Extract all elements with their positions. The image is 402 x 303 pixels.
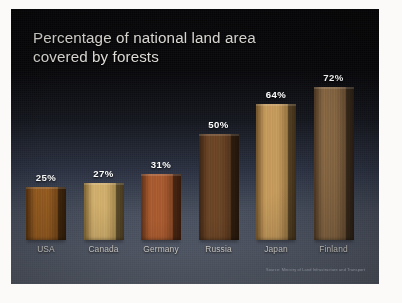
bar-group-finland: 72%Finland xyxy=(314,87,354,240)
bar-drop-shadow xyxy=(85,239,123,242)
bar-group-germany: 31%Germany xyxy=(141,174,181,240)
source-note: Source: Ministry of Land Infrastructure … xyxy=(266,267,365,272)
bar-top-highlight xyxy=(199,134,239,136)
bar-drop-shadow xyxy=(142,239,180,242)
bar-side-face xyxy=(116,183,124,240)
bar-drop-shadow xyxy=(315,239,353,242)
bar-drop-shadow xyxy=(257,239,295,242)
photo-frame: Percentage of national land area covered… xyxy=(0,0,402,303)
bar-value-label: 31% xyxy=(141,159,181,170)
bar-top-highlight xyxy=(141,174,181,176)
bar-top-highlight xyxy=(84,183,124,185)
bar-drop-shadow xyxy=(27,239,65,242)
bar-value-label: 50% xyxy=(199,119,239,130)
bar-category-label: Germany xyxy=(133,244,189,254)
bar-side-face xyxy=(346,87,354,240)
bar-group-japan: 64%Japan xyxy=(256,104,296,240)
bar-germany xyxy=(141,174,181,240)
bar-side-face xyxy=(288,104,296,240)
bar-finland xyxy=(314,87,354,240)
bar-side-face xyxy=(58,187,66,240)
bar-top-highlight xyxy=(256,104,296,106)
bar-value-label: 27% xyxy=(84,168,124,179)
bar-category-label: Japan xyxy=(248,244,304,254)
bar-side-face xyxy=(231,134,239,240)
bar-canada xyxy=(84,183,124,240)
presentation-slide: Percentage of national land area covered… xyxy=(11,9,379,284)
bar-japan xyxy=(256,104,296,240)
bar-russia xyxy=(199,134,239,240)
bar-value-label: 64% xyxy=(256,89,296,100)
bar-side-face xyxy=(173,174,181,240)
bar-value-label: 72% xyxy=(314,72,354,83)
bar-group-usa: 25%USA xyxy=(26,187,66,240)
bar-top-highlight xyxy=(26,187,66,189)
bar-category-label: USA xyxy=(18,244,74,254)
bar-top-highlight xyxy=(314,87,354,89)
bar-usa xyxy=(26,187,66,240)
bar-category-label: Canada xyxy=(76,244,132,254)
bar-group-russia: 50%Russia xyxy=(199,134,239,240)
bar-drop-shadow xyxy=(200,239,238,242)
bar-group-canada: 27%Canada xyxy=(84,183,124,240)
bar-value-label: 25% xyxy=(26,172,66,183)
bar-category-label: Russia xyxy=(191,244,247,254)
bar-category-label: Finland xyxy=(306,244,362,254)
bar-chart-plot-area: 25%USA27%Canada31%Germany50%Russia64%Jap… xyxy=(11,9,379,284)
